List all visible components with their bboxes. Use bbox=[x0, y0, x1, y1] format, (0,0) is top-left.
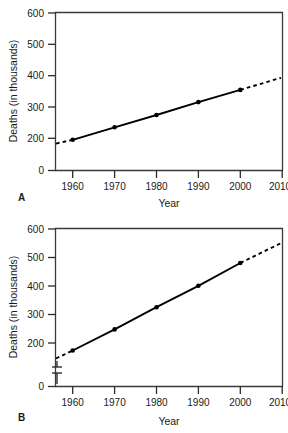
y-tick-label-400-a: 400 bbox=[27, 70, 44, 81]
chart-a-svg: 600 500 400 300 200 0 1960 1970 1980 199… bbox=[0, 0, 288, 216]
data-point-2000-b bbox=[238, 261, 243, 266]
x-tick-label-2000-b: 2000 bbox=[229, 397, 252, 408]
y-tick-label-400-b: 400 bbox=[27, 281, 44, 292]
x-tick-label-1960-a: 1960 bbox=[62, 181, 85, 192]
y-tick-label-0-b: 0 bbox=[38, 381, 44, 392]
x-tick-label-1980-b: 1980 bbox=[145, 397, 168, 408]
plot-frame-a bbox=[56, 13, 283, 171]
y-tick-label-200-a: 200 bbox=[27, 133, 44, 144]
chart-panel-a: 600 500 400 300 200 0 1960 1970 1980 199… bbox=[0, 0, 288, 216]
series-extrapolation-backward-b bbox=[56, 351, 73, 359]
x-tick-label-1990-a: 1990 bbox=[187, 181, 210, 192]
y-tick-label-200-b: 200 bbox=[27, 338, 44, 349]
series-extrapolation-backward-a bbox=[56, 140, 73, 144]
y-tick-label-600-b: 600 bbox=[27, 224, 44, 235]
y-axis-title-a: Deaths (in thousands) bbox=[7, 40, 19, 143]
panel-letter-a: A bbox=[18, 192, 25, 203]
y-tick-label-300-b: 300 bbox=[27, 309, 44, 320]
y-axis-ticks-a bbox=[48, 13, 56, 171]
data-point-1980-a bbox=[154, 113, 159, 118]
x-axis-title-a: Year bbox=[158, 197, 180, 209]
y-axis-title-b: Deaths (in thousands) bbox=[7, 256, 19, 359]
y-axis-break-icon-b bbox=[52, 361, 62, 384]
x-tick-label-2000-a: 2000 bbox=[229, 181, 252, 192]
y-tick-label-500-a: 500 bbox=[27, 39, 44, 50]
series-extrapolation-forward-a bbox=[240, 78, 281, 90]
data-point-1960-a bbox=[70, 138, 75, 143]
y-tick-label-0-a: 0 bbox=[38, 165, 44, 176]
data-point-1970-a bbox=[112, 125, 117, 130]
x-axis-ticks-b bbox=[73, 387, 283, 395]
x-tick-label-1970-b: 1970 bbox=[103, 397, 126, 408]
chart-b-svg: 600 500 400 300 200 0 1960 1970 1980 199… bbox=[0, 216, 288, 433]
y-tick-label-600-a: 600 bbox=[27, 8, 44, 19]
x-tick-label-1980-a: 1980 bbox=[145, 181, 168, 192]
panel-letter-b: B bbox=[18, 412, 25, 423]
x-tick-label-1970-a: 1970 bbox=[103, 181, 126, 192]
data-point-2000-a bbox=[238, 88, 243, 93]
data-point-1970-b bbox=[112, 327, 117, 332]
x-axis-title-b: Year bbox=[158, 415, 180, 427]
x-tick-label-1960-b: 1960 bbox=[62, 397, 85, 408]
x-axis-ticks-a bbox=[73, 171, 283, 179]
y-tick-label-300-a: 300 bbox=[27, 102, 44, 113]
series-extrapolation-forward-b bbox=[240, 243, 281, 263]
x-tick-label-2010-a: 2010 bbox=[269, 181, 288, 192]
x-tick-label-1990-b: 1990 bbox=[187, 397, 210, 408]
x-tick-label-2010-b: 2010 bbox=[269, 397, 288, 408]
chart-panel-b: 600 500 400 300 200 0 1960 1970 1980 199… bbox=[0, 216, 288, 432]
y-tick-label-500-b: 500 bbox=[27, 252, 44, 263]
data-point-1960-b bbox=[70, 348, 75, 353]
data-point-1990-b bbox=[196, 284, 201, 289]
plot-frame-b bbox=[56, 229, 283, 387]
y-axis-ticks-b bbox=[48, 229, 56, 387]
data-point-1980-b bbox=[154, 305, 159, 310]
data-point-1990-a bbox=[196, 100, 201, 105]
